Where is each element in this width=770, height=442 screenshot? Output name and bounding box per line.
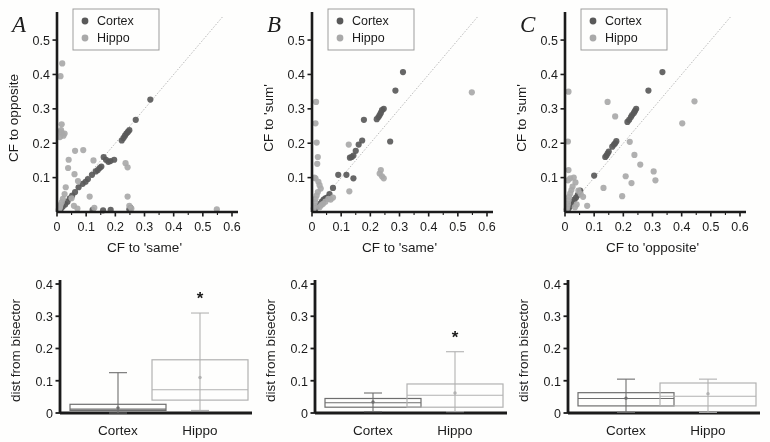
x-tick-label: 0 xyxy=(562,220,569,234)
data-point xyxy=(652,177,658,183)
data-point xyxy=(343,172,349,178)
mean-marker xyxy=(453,391,456,394)
x-tick-label: 0.2 xyxy=(615,220,632,234)
data-point xyxy=(361,117,367,123)
legend: CortexHippo xyxy=(328,9,414,50)
data-point xyxy=(392,88,398,94)
x-tick-label: 0.1 xyxy=(332,220,349,234)
legend-label-hippo: Hippo xyxy=(97,31,130,45)
data-point xyxy=(68,195,74,201)
data-point xyxy=(335,172,341,178)
data-point xyxy=(75,178,81,184)
x-tick-label: 0.6 xyxy=(731,220,748,234)
legend-marker-hippo xyxy=(337,35,344,42)
box-hippo xyxy=(152,313,248,410)
box-plot-b: 00.10.20.30.4dist from bisectorCortexHip… xyxy=(263,278,507,438)
series-hippo xyxy=(311,89,475,211)
panel-c: C00.10.20.30.40.50.60.10.20.30.40.5CF to… xyxy=(508,0,764,442)
box-category-label: Cortex xyxy=(98,423,138,438)
box-y-tick-label: 0.1 xyxy=(36,375,53,389)
box-y-tick-label: 0 xyxy=(554,407,561,421)
box-y-tick-label: 0.3 xyxy=(36,310,53,324)
data-point xyxy=(679,120,685,126)
box-category-label: Hippo xyxy=(437,423,472,438)
x-tick-label: 0.6 xyxy=(223,220,240,234)
data-point xyxy=(645,88,651,94)
data-point xyxy=(72,148,78,154)
y-axis-title: CF to 'sum' xyxy=(514,84,529,151)
y-axis-title: CF to opposite xyxy=(6,74,21,162)
data-point xyxy=(350,175,356,181)
data-point xyxy=(65,165,71,171)
x-tick-label: 0.2 xyxy=(362,220,379,234)
y-tick-label: 0.5 xyxy=(541,34,558,48)
y-tick-label: 0.3 xyxy=(541,102,558,116)
box-hippo xyxy=(407,352,503,412)
box-y-tick-label: 0.2 xyxy=(291,342,308,356)
data-point xyxy=(59,121,65,127)
data-point xyxy=(565,89,571,95)
significance-star: * xyxy=(197,289,204,308)
data-point xyxy=(584,203,590,209)
data-point xyxy=(346,142,352,148)
data-point xyxy=(659,69,665,75)
series-hippo xyxy=(56,60,220,213)
data-point xyxy=(624,119,630,125)
mean-marker xyxy=(624,396,627,399)
data-point xyxy=(623,173,629,179)
data-point xyxy=(378,167,384,173)
data-point xyxy=(315,154,321,160)
box-y-tick-label: 0.1 xyxy=(544,375,561,389)
data-point xyxy=(400,69,406,75)
box-plot-c: 00.10.20.30.4dist from bisectorCortexHip… xyxy=(516,278,760,438)
data-point xyxy=(87,193,93,199)
legend-label-cortex: Cortex xyxy=(605,14,643,28)
x-tick-label: 0.5 xyxy=(449,220,466,234)
data-point xyxy=(119,137,125,143)
x-tick-label: 0.3 xyxy=(644,220,661,234)
figure-root: A00.10.20.30.40.50.60.10.20.30.40.5CF to… xyxy=(0,0,770,442)
box-category-label: Cortex xyxy=(353,423,393,438)
data-point xyxy=(631,152,637,158)
x-tick-label: 0.2 xyxy=(107,220,124,234)
data-point xyxy=(627,139,633,145)
y-tick-label: 0.5 xyxy=(33,34,50,48)
box-y-tick-label: 0.4 xyxy=(36,278,53,292)
box-rect xyxy=(152,360,248,400)
box-plot-a: 00.10.20.30.4dist from bisectorCortexHip… xyxy=(8,278,252,438)
scatter-plot-b: 00.10.20.30.40.50.60.10.20.30.40.5CF to … xyxy=(261,9,496,255)
y-tick-label: 0.1 xyxy=(541,171,558,185)
legend-marker-hippo xyxy=(590,35,597,42)
box-y-tick-label: 0.2 xyxy=(544,342,561,356)
data-point xyxy=(691,98,697,104)
data-point xyxy=(90,157,96,163)
box-y-tick-label: 0 xyxy=(301,407,308,421)
legend: CortexHippo xyxy=(581,9,667,50)
data-point xyxy=(637,161,643,167)
data-point xyxy=(602,154,608,160)
legend-label-cortex: Cortex xyxy=(97,14,135,28)
data-point xyxy=(330,185,336,191)
data-point xyxy=(80,147,86,153)
data-point xyxy=(356,142,362,148)
data-point xyxy=(580,194,586,200)
y-tick-label: 0.2 xyxy=(33,137,50,151)
data-point xyxy=(147,96,153,102)
y-tick-label: 0.4 xyxy=(33,68,50,82)
box-y-axis-title: dist from bisector xyxy=(8,299,23,402)
y-axis-title: CF to 'sum' xyxy=(261,84,276,151)
box-hippo xyxy=(660,379,756,412)
box-y-tick-label: 0.2 xyxy=(36,342,53,356)
legend-marker-cortex xyxy=(590,18,597,25)
legend-label-hippo: Hippo xyxy=(352,31,385,45)
data-point xyxy=(316,204,322,210)
box-y-tick-label: 0.1 xyxy=(291,375,308,389)
data-point xyxy=(651,168,657,174)
y-tick-label: 0.1 xyxy=(33,171,50,185)
data-point xyxy=(66,157,72,163)
data-point xyxy=(314,161,320,167)
data-point xyxy=(469,89,475,95)
data-point xyxy=(133,117,139,123)
mean-marker xyxy=(198,376,201,379)
data-point xyxy=(381,175,387,181)
